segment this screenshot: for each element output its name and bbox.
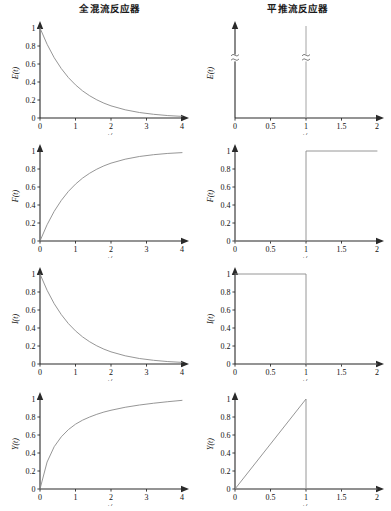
x-tick-label: 2 — [375, 122, 379, 131]
data-curve — [235, 399, 377, 489]
panel-pfr-f: 00.511.5200.20.40.60.81t/τF(t) — [195, 135, 391, 258]
x-tick-label: 0 — [38, 122, 42, 131]
x-tick-label: 1 — [74, 245, 78, 254]
panel-pfr-e: 00.511.52t/τE(t) — [195, 12, 391, 135]
y-axis-label: F(t) — [206, 189, 215, 203]
x-axis-label: t/τ — [107, 503, 115, 506]
rtd-figure: 全混流反应器 平推流反应器 0123400.20.40.60.81t/τE(t)… — [0, 0, 391, 511]
x-tick-label: 2 — [109, 245, 113, 254]
panel-cstr-f: 0123400.20.40.60.81t/τF(t) — [0, 135, 196, 258]
x-tick-label: 3 — [145, 245, 149, 254]
y-tick-label: 0.8 — [26, 288, 36, 297]
y-axis-label: Y(t) — [11, 438, 20, 450]
y-axis-label: E(t) — [206, 66, 215, 80]
x-tick-label: 0 — [38, 245, 42, 254]
y-tick-label: 0.8 — [26, 165, 36, 174]
x-tick-label: 1.5 — [337, 245, 347, 254]
panel-cstr-i: 0123400.20.40.60.81t/τI(t) — [0, 258, 196, 381]
x-tick-label: 0 — [233, 245, 237, 254]
x-tick-label: 0.5 — [266, 368, 276, 377]
y-tick-label: 0.4 — [221, 201, 231, 210]
y-tick-label: 0.8 — [221, 165, 231, 174]
y-tick-label: 0 — [227, 237, 231, 246]
y-axis-label: Y(t) — [206, 438, 215, 450]
y-tick-label: 0.2 — [26, 96, 36, 105]
y-tick-label: 0.6 — [221, 306, 231, 315]
x-tick-label: 1 — [74, 493, 78, 502]
x-tick-label: 2 — [109, 493, 113, 502]
panel-pfr-i: 00.511.5200.20.40.60.81t/τI(t) — [195, 258, 391, 381]
x-tick-label: 1.5 — [337, 493, 347, 502]
y-tick-label: 0.8 — [221, 413, 231, 422]
panel-cstr-e: 0123400.20.40.60.81t/τE(t) — [0, 12, 196, 135]
y-tick-label: 1 — [227, 395, 231, 404]
x-tick-label: 4 — [180, 122, 184, 131]
x-tick-label: 4 — [180, 245, 184, 254]
data-curve — [40, 400, 182, 489]
panel-cstr-y: 0123400.20.40.60.81t/τY(t) — [0, 383, 196, 506]
x-tick-label: 2 — [375, 368, 379, 377]
y-tick-label: 0.6 — [26, 60, 36, 69]
y-axis-label: E(t) — [11, 66, 20, 80]
x-tick-label: 2 — [109, 368, 113, 377]
x-tick-label: 4 — [180, 368, 184, 377]
y-tick-label: 0 — [227, 485, 231, 494]
y-axis-label: I(t) — [11, 314, 20, 326]
x-tick-label: 1 — [304, 493, 308, 502]
y-tick-label: 0.4 — [26, 324, 36, 333]
x-tick-label: 0 — [233, 122, 237, 131]
y-tick-label: 0.8 — [221, 288, 231, 297]
x-tick-label: 0.5 — [266, 245, 276, 254]
data-curve — [40, 274, 182, 362]
x-tick-label: 1 — [304, 368, 308, 377]
y-tick-label: 1 — [227, 147, 231, 156]
y-tick-label: 1 — [227, 270, 231, 279]
x-tick-label: 1 — [304, 245, 308, 254]
x-tick-label: 0.5 — [266, 493, 276, 502]
y-tick-label: 0.2 — [221, 219, 231, 228]
y-tick-label: 0.6 — [221, 431, 231, 440]
y-tick-label: 0 — [227, 360, 231, 369]
x-tick-label: 1 — [304, 122, 308, 131]
y-tick-label: 0.2 — [221, 467, 231, 476]
y-tick-label: 0.4 — [221, 449, 231, 458]
x-axis-label: t/τ — [107, 378, 115, 381]
x-tick-label: 3 — [145, 122, 149, 131]
y-tick-label: 0 — [32, 360, 36, 369]
y-tick-label: 0.6 — [26, 306, 36, 315]
y-tick-label: 1 — [32, 24, 36, 33]
y-tick-label: 0.8 — [26, 413, 36, 422]
y-tick-label: 0.4 — [26, 201, 36, 210]
y-tick-label: 0.4 — [221, 324, 231, 333]
y-tick-label: 1 — [32, 147, 36, 156]
x-axis-label: t/τ — [302, 503, 310, 506]
y-axis-label: F(t) — [11, 189, 20, 203]
data-curve — [40, 153, 182, 241]
y-tick-label: 0.6 — [26, 431, 36, 440]
y-tick-label: 0.2 — [26, 219, 36, 228]
y-tick-label: 0.2 — [26, 342, 36, 351]
y-tick-label: 1 — [32, 395, 36, 404]
panel-pfr-y: 00.511.5200.20.40.60.81t/τY(t) — [195, 383, 391, 506]
y-tick-label: 1 — [32, 270, 36, 279]
y-tick-label: 0.2 — [26, 467, 36, 476]
y-axis-label: I(t) — [206, 314, 215, 326]
x-tick-label: 2 — [109, 122, 113, 131]
x-tick-label: 0 — [233, 368, 237, 377]
x-tick-label: 0 — [38, 368, 42, 377]
data-curve — [40, 28, 182, 116]
x-tick-label: 4 — [180, 493, 184, 502]
x-tick-label: 1 — [74, 368, 78, 377]
x-tick-label: 3 — [145, 368, 149, 377]
data-curve — [235, 274, 377, 364]
x-tick-label: 0.5 — [266, 122, 276, 131]
y-tick-label: 0 — [32, 114, 36, 123]
x-tick-label: 2 — [375, 493, 379, 502]
x-tick-label: 2 — [375, 245, 379, 254]
y-tick-label: 0.2 — [221, 342, 231, 351]
y-tick-label: 0 — [32, 485, 36, 494]
y-tick-label: 0 — [32, 237, 36, 246]
x-tick-label: 1 — [74, 122, 78, 131]
y-tick-label: 0.6 — [221, 183, 231, 192]
y-tick-label: 0.4 — [26, 449, 36, 458]
